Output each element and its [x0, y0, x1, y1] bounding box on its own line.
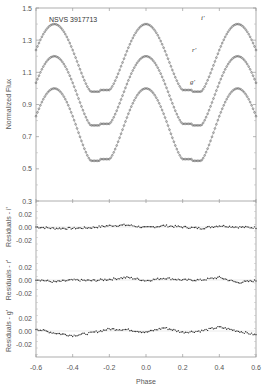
residual-point: [51, 332, 52, 333]
residual-point: [142, 226, 143, 227]
residual-point: [57, 333, 58, 334]
residual-point: [247, 226, 248, 227]
residual-point: [100, 278, 101, 279]
residual-point: [201, 330, 202, 331]
residual-tick-label: -0.02: [16, 237, 32, 244]
x-tick-label: 0.4: [214, 364, 224, 371]
y-axis-title-residuals-g: Residuals - g': [5, 310, 13, 352]
residual-point: [179, 332, 180, 333]
residual-point: [160, 278, 161, 279]
residual-point: [47, 331, 48, 332]
residual-point: [189, 279, 190, 280]
residual-point: [122, 278, 123, 279]
residual-point: [68, 227, 69, 228]
residual-point: [239, 282, 240, 283]
residual-point: [232, 330, 233, 331]
residual-point: [219, 276, 220, 277]
residual-point: [176, 331, 177, 332]
residual-point: [120, 277, 121, 278]
light-curve-series-g: [35, 88, 257, 162]
residual-point: [186, 227, 187, 228]
residual-point: [229, 225, 230, 226]
residual-series-g: [35, 326, 256, 337]
residual-point: [141, 280, 142, 281]
residual-point: [235, 281, 236, 282]
residual-point: [59, 333, 60, 334]
residual-point: [208, 226, 209, 227]
band-label-g: g': [190, 78, 196, 86]
residual-point: [69, 279, 70, 280]
residual-tick-label: 0.02: [18, 315, 32, 322]
residual-point: [40, 280, 41, 281]
residual-point: [35, 226, 36, 227]
residual-point: [109, 225, 110, 226]
residual-point: [241, 331, 242, 332]
residual-point: [109, 328, 110, 329]
residual-point: [123, 329, 124, 330]
residual-point: [126, 329, 127, 330]
residual-point: [38, 330, 39, 331]
residual-point: [150, 330, 151, 331]
residual-point: [68, 279, 69, 280]
residual-point: [194, 280, 195, 281]
residual-point: [216, 225, 217, 226]
residual-point: [252, 334, 253, 335]
residual-point: [123, 224, 124, 225]
residual-point: [198, 330, 199, 331]
residual-point: [129, 330, 130, 331]
residual-point: [194, 332, 195, 333]
residual-point: [37, 279, 38, 280]
residual-point: [38, 279, 39, 280]
residual-point: [150, 226, 151, 227]
residual-point: [163, 225, 164, 226]
residual-point: [251, 281, 252, 282]
residual-point: [205, 329, 206, 330]
residual-point: [142, 279, 143, 280]
residual-point: [172, 278, 173, 279]
residual-point: [229, 280, 230, 281]
residual-point: [106, 225, 107, 226]
residual-point: [125, 225, 126, 226]
residual-point: [87, 228, 88, 229]
residual-point: [230, 227, 231, 228]
residual-point: [251, 227, 252, 228]
residual-point: [252, 281, 253, 282]
residual-point: [164, 278, 165, 279]
residual-point: [170, 279, 171, 280]
residual-point: [76, 228, 77, 229]
residual-point: [205, 227, 206, 228]
residual-point: [166, 327, 167, 328]
residual-point: [255, 228, 256, 229]
residual-point: [210, 277, 211, 278]
residual-point: [254, 279, 255, 280]
residual-tick-label: 0.02: [18, 211, 32, 218]
residual-point: [232, 226, 233, 227]
residual-point: [166, 278, 167, 279]
residual-point: [119, 278, 120, 279]
residual-point: [227, 280, 228, 281]
residual-point: [76, 335, 77, 336]
residual-point: [84, 332, 85, 333]
residual-point: [85, 227, 86, 228]
residual-point: [219, 225, 220, 226]
residual-point: [229, 328, 230, 329]
residual-point: [126, 276, 127, 277]
residual-point: [148, 280, 149, 281]
residual-point: [173, 279, 174, 280]
residual-point: [87, 279, 88, 280]
residual-point: [144, 332, 145, 333]
y-axis-title-flux: Normalized Flux: [5, 78, 12, 129]
residual-point: [233, 329, 234, 330]
residual-point: [97, 227, 98, 228]
residual-tick-label: -0.02: [16, 341, 32, 348]
residual-point: [167, 226, 168, 227]
residual-point: [244, 333, 245, 334]
residual-point: [37, 329, 38, 330]
residual-point: [161, 327, 162, 328]
residual-point: [157, 278, 158, 279]
residual-point: [181, 331, 182, 332]
residual-point: [90, 227, 91, 228]
residual-point: [175, 279, 176, 280]
residual-point: [249, 280, 250, 281]
residual-point: [109, 279, 110, 280]
